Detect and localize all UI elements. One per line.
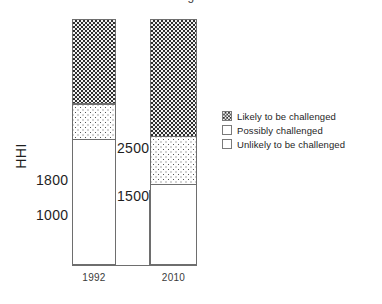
x-axis-baseline (72, 265, 197, 266)
chart-title-cutoff: g (0, 0, 382, 3)
value-label-1000: 1000 (36, 207, 68, 223)
bar-2010-segment-likely[interactable] (150, 19, 197, 137)
value-label-2500: 2500 (117, 140, 149, 156)
legend-swatch-possibly-icon (222, 125, 232, 135)
bar-2010-segment-possibly[interactable] (150, 136, 197, 185)
chart-figure: g HHI 1800 1000 2500 1500 1992 2010 Like… (0, 0, 382, 304)
y-axis-title-text: HHI (13, 143, 29, 169)
category-label-1992: 1992 (72, 272, 116, 283)
legend-label-possibly: Possibly challenged (237, 125, 323, 136)
legend-item-possibly[interactable]: Possibly challenged (222, 124, 377, 136)
value-label-1500: 1500 (117, 188, 149, 204)
y-axis-title: HHI (4, 128, 38, 184)
category-label-2010: 2010 (150, 272, 197, 283)
chart-legend: Likely to be challenged Possibly challen… (222, 110, 377, 152)
bar-2010-segment-unlikely[interactable] (150, 184, 197, 265)
bar-1992-segment-unlikely[interactable] (72, 139, 116, 265)
legend-item-likely[interactable]: Likely to be challenged (222, 110, 377, 122)
legend-item-unlikely[interactable]: Unlikely to be challenged (222, 138, 377, 150)
legend-swatch-unlikely-icon (222, 139, 232, 149)
bar-1992-segment-possibly[interactable] (72, 104, 116, 140)
bar-1992-segment-likely[interactable] (72, 19, 116, 104)
bar-2010[interactable] (150, 19, 197, 265)
value-label-1800: 1800 (36, 172, 68, 188)
legend-label-unlikely: Unlikely to be challenged (237, 139, 345, 150)
bar-1992[interactable] (72, 19, 116, 265)
legend-swatch-likely-icon (222, 111, 232, 121)
legend-label-likely: Likely to be challenged (237, 111, 336, 122)
